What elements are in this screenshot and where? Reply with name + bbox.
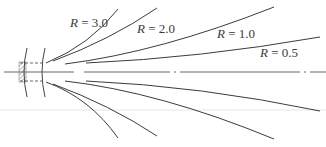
source-block [19, 62, 26, 82]
beam-divergence-diagram: R = 3.0 R = 2.0 R = 1.0 R = 0.5 [0, 0, 326, 147]
label-r30: R = 3.0 [69, 15, 108, 30]
label-r05: R = 0.5 [259, 45, 298, 60]
label-r20: R = 2.0 [136, 21, 175, 36]
lens-2 [42, 48, 45, 97]
label-r10: R = 1.0 [216, 26, 255, 41]
ray-r05-lower [86, 81, 320, 111]
